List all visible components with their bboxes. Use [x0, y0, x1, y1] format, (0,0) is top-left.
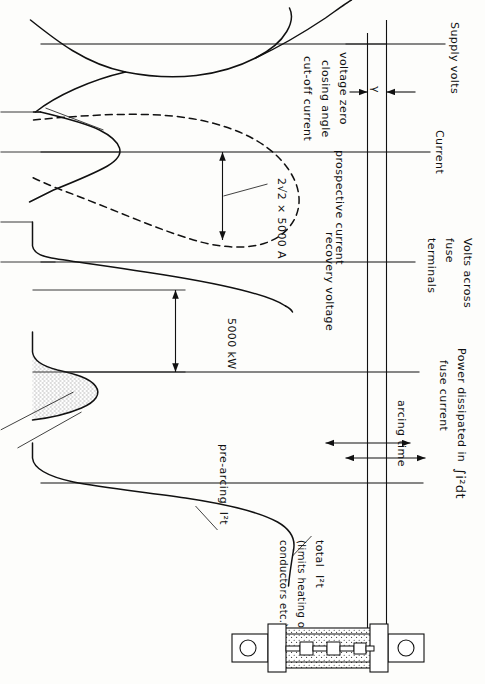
dim-recovery-voltage [0, 222, 55, 262]
baselines [367, 20, 386, 668]
fuse-right-bolt-hole [398, 640, 414, 656]
label-pre-arcing-i2t: pre-arcing I²t [216, 444, 229, 525]
label-5000-kw: 5000 kW [224, 318, 237, 370]
fuse-waveform-diagram: Supply volts Current Volts across fuse t… [0, 0, 485, 684]
recovery-voltage-curve [32, 222, 285, 306]
text-labels: Supply volts Current Volts across fuse t… [0, 22, 473, 632]
label-recovery-voltage: recovery voltage [322, 232, 335, 331]
cut-off-current-curve [29, 112, 120, 202]
label-integral-i2dt: ∫i²dt [452, 468, 467, 499]
fuse-left-bolt-hole [240, 640, 256, 656]
label-closing-angle: closing angle [318, 60, 331, 138]
volts-across-fuse-waveform [32, 222, 292, 312]
dim-arcing-time [325, 443, 425, 458]
label-cut-off-current: cut-off current [300, 56, 313, 141]
rotated-figure-canvas: Supply volts Current Volts across fuse t… [0, 0, 485, 684]
power-dissipated-waveform [32, 332, 97, 420]
dim-power-5000kw [32, 290, 185, 372]
trace-axes [40, 44, 445, 483]
label-power-dissipated: Power dissipated in [454, 348, 467, 462]
cartridge-fuse-cutaway [228, 614, 428, 682]
label-volts-across-terminals: terminals [424, 238, 437, 293]
melted-sand-area [32, 332, 97, 420]
label-gamma: γ [368, 86, 381, 93]
label-supply-volts: Supply volts [447, 22, 460, 94]
prospective-current-curve [29, 114, 299, 247]
label-current: Current [432, 130, 445, 174]
label-voltage-zero: voltage zero [336, 52, 349, 125]
i2t-curve [32, 443, 293, 550]
figure-page: Supply volts Current Volts across fuse t… [0, 0, 485, 684]
label-fuse-current: fuse current [436, 360, 449, 432]
i2t-waveform [32, 443, 293, 586]
current-waveform [29, 112, 299, 247]
label-total-i2t: total I²t [312, 540, 325, 588]
label-volts-across-fuse: fuse [442, 238, 455, 263]
fuse-left-endcap [268, 624, 286, 672]
label-volts-across: Volts across [460, 238, 473, 308]
label-arcing-time: arcing time [394, 400, 407, 467]
label-peak-prospective-current: 2√2 × 5000 A [274, 178, 287, 259]
